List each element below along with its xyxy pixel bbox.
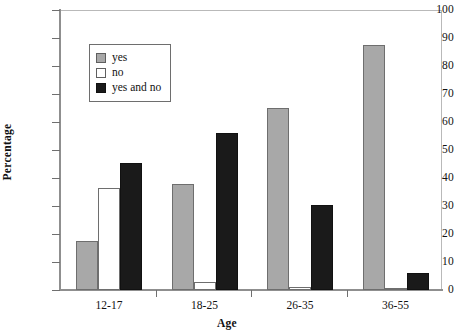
bar-36-55-yes: [363, 45, 385, 290]
x-axis-tick-label: 26-35: [255, 299, 345, 311]
legend-item-yes: yes: [96, 51, 161, 65]
bar-chart: 0102030405060708090100 12-1718-2526-3536…: [0, 0, 454, 334]
y-axis-title: Percentage: [0, 100, 16, 210]
x-axis-tick: [156, 290, 157, 297]
y-axis-tick: [52, 66, 60, 67]
legend-item-yes-and-no: yes and no: [96, 81, 161, 95]
legend-swatch-icon: [96, 53, 106, 63]
legend-item-no: no: [96, 66, 161, 80]
legend: yesnoyes and no: [89, 44, 171, 102]
legend-item-label: yes and no: [112, 82, 161, 94]
y-axis-tick: [52, 38, 60, 39]
x-axis-tick-label: 36-55: [351, 299, 441, 311]
bar-36-55-yes-and-no: [407, 273, 429, 290]
y-axis-tick: [52, 10, 60, 11]
x-axis-tick: [251, 290, 252, 297]
y-axis-tick: [52, 234, 60, 235]
bar-26-35-no: [289, 287, 311, 290]
bar-12-17-yes-and-no: [120, 163, 142, 290]
bar-12-17-yes: [76, 241, 98, 290]
bar-12-17-no: [98, 188, 120, 290]
x-axis-tick-label: 12-17: [64, 299, 154, 311]
y-axis-tick: [52, 290, 60, 291]
bar-26-35-yes-and-no: [311, 205, 333, 290]
y-axis-tick: [52, 178, 60, 179]
bar-18-25-yes-and-no: [216, 133, 238, 290]
legend-swatch-icon: [96, 68, 106, 78]
legend-item-label: no: [112, 67, 124, 79]
legend-item-label: yes: [112, 52, 127, 64]
x-axis-title-text: Age: [0, 317, 454, 329]
y-axis-title-text: Percentage: [1, 97, 13, 207]
y-axis-tick: [52, 122, 60, 123]
y-axis-tick: [52, 262, 60, 263]
y-axis-tick: [52, 150, 60, 151]
bar-36-55-no: [385, 288, 407, 290]
bar-18-25-no: [194, 282, 216, 290]
x-axis-tick-label: 18-25: [160, 299, 250, 311]
y-axis-tick: [52, 94, 60, 95]
legend-swatch-icon: [96, 83, 106, 93]
bar-18-25-yes: [172, 184, 194, 290]
y-axis-tick: [52, 206, 60, 207]
x-axis-tick: [347, 290, 348, 297]
bar-26-35-yes: [267, 108, 289, 290]
